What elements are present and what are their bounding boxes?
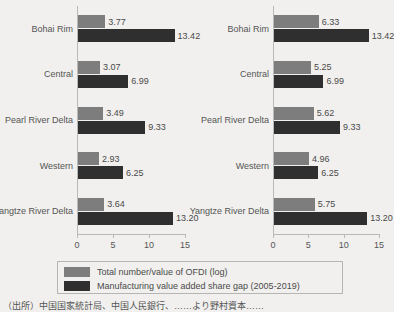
bar bbox=[274, 75, 323, 88]
category-label: Central bbox=[240, 69, 269, 79]
bar-value-label: 5.75 bbox=[318, 199, 336, 209]
bar-value-label: 3.77 bbox=[108, 17, 126, 27]
bar-value-label: 9.33 bbox=[343, 122, 361, 132]
bar bbox=[78, 15, 105, 28]
bar bbox=[78, 198, 104, 211]
legend-item: Total number/value of OFDI (log) bbox=[64, 265, 336, 278]
x-axis-tick bbox=[344, 234, 345, 238]
bar bbox=[274, 61, 311, 74]
x-axis-tick-label: 10 bbox=[339, 240, 349, 250]
category-label: Pearl River Delta bbox=[201, 115, 269, 125]
x-axis-tick-label: 0 bbox=[270, 240, 275, 250]
chart-panels: 051015Bohai Rim3.7713.42Central3.076.99P… bbox=[0, 0, 393, 252]
bar bbox=[78, 152, 99, 165]
bar-value-label: 6.33 bbox=[322, 17, 340, 27]
bar bbox=[274, 152, 309, 165]
chart-legend: Total number/value of OFDI (log) Manufac… bbox=[57, 261, 343, 294]
bar bbox=[78, 212, 173, 225]
legend-label: Total number/value of OFDI (log) bbox=[97, 267, 228, 277]
x-axis-tick-label: 10 bbox=[144, 240, 154, 250]
bar-value-label: 13.20 bbox=[370, 213, 393, 223]
bar bbox=[274, 166, 318, 179]
bar bbox=[78, 29, 175, 42]
x-axis-tick-label: 5 bbox=[110, 240, 115, 250]
category-label: Western bbox=[40, 161, 73, 171]
bar-value-label: 6.99 bbox=[326, 76, 344, 86]
category-label: Bohai Rim bbox=[227, 24, 269, 34]
x-axis-tick bbox=[379, 234, 380, 238]
bar bbox=[274, 212, 367, 225]
x-axis-tick-label: 5 bbox=[306, 240, 311, 250]
left-chart-panel: 051015Bohai Rim3.7713.42Central3.076.99P… bbox=[0, 0, 196, 252]
x-axis-tick-label: 15 bbox=[180, 240, 190, 250]
bar-value-label: 13.42 bbox=[372, 31, 394, 41]
x-axis-line bbox=[273, 234, 379, 235]
bar bbox=[274, 29, 369, 42]
bar-value-label: 4.96 bbox=[312, 154, 330, 164]
x-axis-tick bbox=[149, 234, 150, 238]
bar-value-label: 6.25 bbox=[321, 168, 339, 178]
x-axis-tick bbox=[77, 234, 78, 238]
bar bbox=[274, 15, 319, 28]
x-axis-tick bbox=[308, 234, 309, 238]
bar bbox=[78, 75, 128, 88]
category-label: Bohai Rim bbox=[31, 24, 73, 34]
left-plot-area: 051015Bohai Rim3.7713.42Central3.076.99P… bbox=[77, 6, 185, 234]
category-label: Central bbox=[44, 69, 73, 79]
bar bbox=[274, 121, 340, 134]
bar bbox=[274, 107, 314, 120]
bar-value-label: 2.93 bbox=[102, 154, 120, 164]
bar-value-label: 3.64 bbox=[107, 199, 125, 209]
bar-value-label: 9.33 bbox=[148, 122, 166, 132]
x-axis-tick-label: 0 bbox=[74, 240, 79, 250]
source-note: （出所）中国国家統計局、中国人民銀行、……より野村資本…… bbox=[3, 299, 264, 312]
legend-swatch-icon bbox=[64, 267, 90, 277]
category-label: Yangtze River Delta bbox=[0, 206, 73, 216]
bar-value-label: 6.99 bbox=[131, 76, 149, 86]
legend-swatch-icon bbox=[64, 281, 90, 291]
x-axis-tick bbox=[273, 234, 274, 238]
x-axis-tick bbox=[113, 234, 114, 238]
category-label: Pearl River Delta bbox=[5, 115, 73, 125]
x-axis-tick-label: 15 bbox=[374, 240, 384, 250]
legend-label: Manufacturing value added share gap (200… bbox=[97, 281, 300, 291]
right-chart-panel: 051015Bohai Rim6.3313.42Central5.256.99P… bbox=[196, 0, 393, 252]
bar-value-label: 5.62 bbox=[317, 108, 335, 118]
x-axis-line bbox=[77, 234, 185, 235]
bar bbox=[78, 121, 145, 134]
x-axis-tick bbox=[185, 234, 186, 238]
bar bbox=[274, 198, 315, 211]
legend-item: Manufacturing value added share gap (200… bbox=[64, 279, 336, 292]
bar-value-label: 3.07 bbox=[103, 62, 121, 72]
bar-value-label: 6.25 bbox=[126, 168, 144, 178]
bar bbox=[78, 61, 100, 74]
bar bbox=[78, 166, 123, 179]
category-label: Western bbox=[236, 161, 269, 171]
category-label: Yangtze River Delta bbox=[190, 206, 269, 216]
right-plot-area: 051015Bohai Rim6.3313.42Central5.256.99P… bbox=[273, 6, 379, 234]
bar-value-label: 3.49 bbox=[106, 108, 124, 118]
bar-value-label: 5.25 bbox=[314, 62, 332, 72]
bar bbox=[78, 107, 103, 120]
